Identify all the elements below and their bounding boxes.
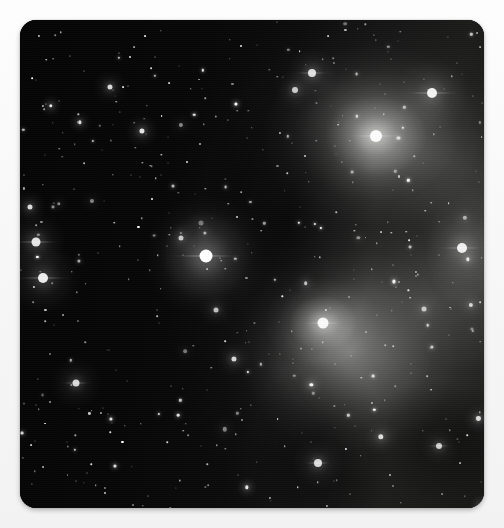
mid-field-star [214,308,219,313]
upper-pair-star-a [308,69,316,77]
right-low-star [436,443,442,449]
upper-pair-star-b [292,87,298,93]
bright-star-layer [20,20,484,508]
nebula-edge-star [422,307,427,312]
left-upper-star [32,238,41,247]
upper-right-nebular-star [370,130,382,142]
upper-right-spiked-star [427,88,437,98]
diffraction-spikes [20,215,63,269]
bottom-nebula-star [314,459,322,467]
star-cluster-photograph[interactable] [20,20,484,508]
page-root [0,0,504,528]
central-bright-star [200,250,213,263]
lower-left-bright [73,380,80,387]
left-lower-star [38,273,48,283]
right-mid-star [457,243,467,253]
lower-nebula-core-star [318,318,329,329]
